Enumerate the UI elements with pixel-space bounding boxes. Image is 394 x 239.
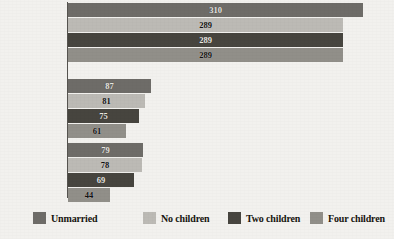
bar-value-label: 289 [197,18,215,32]
legend-item-unmarried[interactable]: Unmarried [33,210,97,226]
legend-label: Two children [246,213,300,224]
legend-swatch-icon [143,212,156,224]
legend-swatch-icon [33,212,46,224]
legend-label: No children [161,213,209,224]
plot-area: High-skilled310289289289Mid-skilled87817… [0,0,394,200]
bar-value-label: 44 [80,188,98,202]
legend-swatch-icon [310,212,323,224]
legend-item-no-children[interactable]: No children [143,210,209,226]
bar-value-label: 61 [88,124,106,138]
bar-value-label: 87 [101,79,119,93]
bar-value-label: 75 [95,109,113,123]
bar-value-label: 289 [197,48,215,62]
bar-value-label: 310 [207,3,225,17]
legend-item-two-children[interactable]: Two children [228,210,300,226]
chart-legend: UnmarriedNo childrenTwo childrenFour chi… [0,206,394,232]
legend-label: Four children [328,213,385,224]
bar-value-label: 69 [92,173,110,187]
bar-value-label: 79 [97,143,115,157]
bar-chart: High-skilled310289289289Mid-skilled87817… [0,0,394,239]
legend-swatch-icon [228,212,241,224]
bar-value-label: 81 [98,94,116,108]
legend-item-four-children[interactable]: Four children [310,210,385,226]
bar-value-label: 289 [197,33,215,47]
bar-value-label: 78 [96,158,114,172]
category-axis-line [67,2,68,198]
legend-label: Unmarried [51,213,97,224]
